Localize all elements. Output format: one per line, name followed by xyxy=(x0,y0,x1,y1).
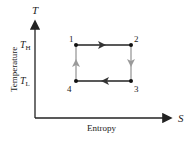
point-label-3: 3 xyxy=(134,84,139,94)
point-4 xyxy=(74,79,78,83)
point-1 xyxy=(74,43,78,47)
tick-tl: TL xyxy=(20,75,30,88)
point-label-1: 1 xyxy=(69,34,74,44)
y-axis-label: Temperature xyxy=(9,47,19,92)
y-axis-symbol: T xyxy=(32,4,39,16)
point-3 xyxy=(129,79,133,83)
diagram-canvas: T S Temperature Entropy TH TL 1 2 3 4 xyxy=(0,0,189,144)
tick-th: TH xyxy=(20,39,31,52)
x-axis-label: Entropy xyxy=(87,123,116,133)
x-axis-symbol: S xyxy=(178,112,184,124)
point-label-2: 2 xyxy=(134,34,139,44)
carnot-ts-diagram: T S Temperature Entropy TH TL 1 2 3 4 xyxy=(0,0,189,144)
point-2 xyxy=(129,43,133,47)
point-label-4: 4 xyxy=(67,84,72,94)
